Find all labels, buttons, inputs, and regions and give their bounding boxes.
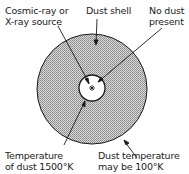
source-label-line2: X-ray source	[5, 16, 62, 27]
outer-temp-label-line1: Dust temperature	[98, 150, 180, 161]
nodust-label-line2: present	[149, 16, 184, 27]
outer-temp-label-line2: may be 100°K	[98, 161, 163, 172]
inner-temp-label-line2: of dust 1500°K	[5, 161, 73, 172]
outer-temp-arrowhead	[124, 140, 129, 145]
inner-temp-label-line1: Temperature	[5, 150, 63, 161]
nodust-label-line1: No dust	[149, 5, 184, 16]
source-label-line1: Cosmic-ray or	[5, 5, 68, 16]
shell-label: Dust shell	[86, 5, 131, 16]
